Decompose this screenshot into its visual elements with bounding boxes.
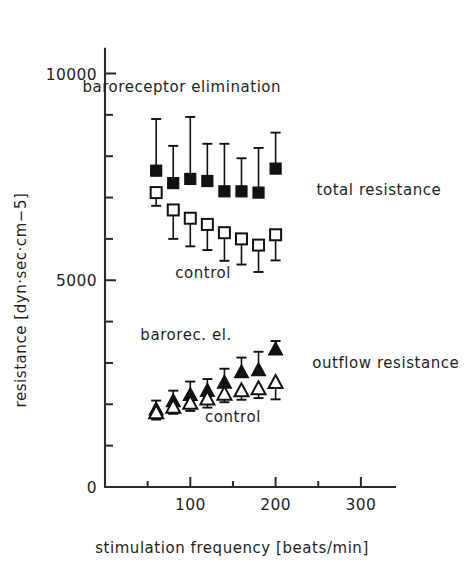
x-tick-label-200: 200 xyxy=(260,496,291,514)
data-point xyxy=(219,227,230,261)
y-tick-label-0: 0 xyxy=(87,479,97,497)
data-point xyxy=(253,148,264,198)
data-point xyxy=(234,383,248,399)
series-open-square xyxy=(151,187,281,272)
data-point xyxy=(252,352,266,376)
data-point xyxy=(252,381,266,398)
annotation-control-total: control xyxy=(175,264,231,282)
y-axis-label: resistance [dyn·sec·cm−5] xyxy=(12,193,30,408)
y-axis-tick-labels: 0500010000 xyxy=(46,66,97,498)
data-point xyxy=(217,387,231,403)
x-tick-label-300: 300 xyxy=(346,496,377,514)
resistance-scatter-chart: 0500010000 100200300 baroreceptor elimin… xyxy=(0,0,464,585)
data-point xyxy=(269,341,283,355)
data-point xyxy=(168,204,179,238)
annotation-barorec-el: barorec. el. xyxy=(140,326,231,344)
data-point xyxy=(270,133,281,174)
annotation-total-resistance: total resistance xyxy=(317,181,442,199)
data-point xyxy=(202,219,213,250)
annotation-control-outflow: control xyxy=(205,408,261,426)
data-point xyxy=(253,240,264,272)
chart-annotations: baroreceptor eliminationtotal resistance… xyxy=(82,78,459,426)
data-point xyxy=(151,119,162,176)
x-axis-tick-labels: 100200300 xyxy=(175,496,376,514)
data-point xyxy=(149,405,163,419)
series-filled-triangle xyxy=(149,341,282,415)
data-point xyxy=(185,213,196,247)
data-point xyxy=(234,358,248,378)
y-tick-label-5000: 5000 xyxy=(56,272,97,290)
data-point xyxy=(236,233,247,264)
data-point xyxy=(269,375,283,399)
data-point xyxy=(168,146,179,189)
data-point xyxy=(185,117,196,185)
data-point xyxy=(202,144,213,187)
data-point xyxy=(151,187,162,206)
annotation-outflow-resistance: outflow resistance xyxy=(312,354,459,372)
series-filled-square xyxy=(151,117,281,198)
data-point xyxy=(270,229,281,260)
x-axis-label: stimulation frequency [beats/min] xyxy=(95,539,369,557)
figure-container: 0500010000 100200300 baroreceptor elimin… xyxy=(0,0,464,585)
x-tick-label-100: 100 xyxy=(175,496,206,514)
annotation-baroreceptor-elimination: baroreceptor elimination xyxy=(82,78,281,96)
data-point xyxy=(236,158,247,197)
data-point xyxy=(219,144,230,197)
